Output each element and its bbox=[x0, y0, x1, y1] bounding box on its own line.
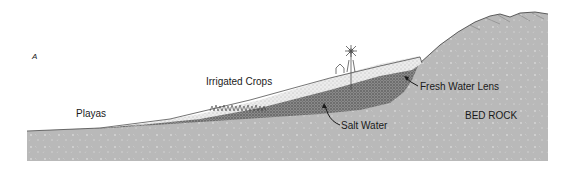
label-bed-rock: BED ROCK bbox=[465, 111, 517, 121]
label-playas: Playas bbox=[76, 109, 106, 119]
label-irrigated-crops: Irrigated Crops bbox=[206, 77, 272, 87]
farmhouse-icon bbox=[336, 64, 344, 74]
label-salt-water: Salt Water bbox=[341, 121, 387, 131]
panel-letter: A bbox=[32, 53, 37, 61]
label-fresh-water-lens: Fresh Water Lens bbox=[420, 82, 499, 92]
